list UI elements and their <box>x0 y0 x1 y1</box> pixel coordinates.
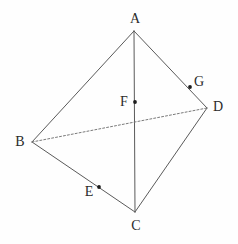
vertex-label-D: D <box>213 100 223 114</box>
vertex-label-A: A <box>130 12 140 26</box>
segment-BC <box>32 142 135 212</box>
segment-AD <box>134 31 207 108</box>
vertex-label-G: G <box>194 75 204 89</box>
vertex-label-E: E <box>85 185 94 199</box>
vertex-label-B: B <box>15 135 24 149</box>
geometry-figure: ABCDEFG <box>0 0 238 244</box>
segments-layer <box>32 31 207 212</box>
vertex-label-C: C <box>131 219 140 233</box>
figure-svg <box>0 0 238 244</box>
point-marker-F <box>133 100 137 104</box>
segment-AC <box>134 31 135 212</box>
point-marker-E <box>97 185 101 189</box>
point-marker-G <box>188 85 192 89</box>
vertex-label-F: F <box>120 95 128 109</box>
segment-DC <box>135 108 207 212</box>
points-layer <box>97 85 192 189</box>
